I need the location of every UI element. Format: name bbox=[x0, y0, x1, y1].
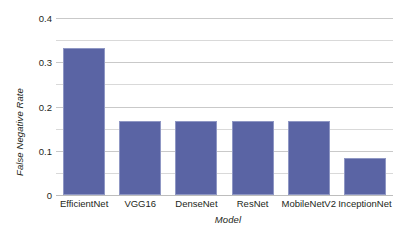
bar-efficientnet bbox=[63, 48, 105, 195]
x-tick-label-mobilenetv2: MobileNetV2 bbox=[281, 198, 337, 209]
bar-slot bbox=[232, 18, 274, 195]
y-tick-label-0.4: 0.4 bbox=[16, 13, 52, 24]
bar-inceptionnet bbox=[344, 158, 386, 195]
bar-densenet bbox=[175, 121, 217, 195]
y-tick-label-0: 0 bbox=[16, 190, 52, 201]
bar-resnet bbox=[232, 121, 274, 195]
bar-slot bbox=[344, 18, 386, 195]
x-axis-title: Model bbox=[63, 214, 393, 225]
y-tick-label-0.1: 0.1 bbox=[16, 145, 52, 156]
bar-mobilenetv2 bbox=[288, 121, 330, 195]
y-tick-label-0.2: 0.2 bbox=[16, 101, 52, 112]
x-tick-label-inceptionnet: InceptionNet bbox=[337, 198, 393, 209]
bar-slot bbox=[63, 18, 105, 195]
x-tick-label-resnet: ResNet bbox=[225, 198, 281, 209]
x-tick-label-vgg16: VGG16 bbox=[112, 198, 168, 209]
bar-chart-figure: False Negative Rate 00.10.20.30.4 Effici… bbox=[0, 0, 404, 242]
x-tick-label-densenet: DenseNet bbox=[168, 198, 224, 209]
bar-slot bbox=[119, 18, 161, 195]
bars-layer bbox=[56, 18, 393, 195]
y-tick-label-0.3: 0.3 bbox=[16, 57, 52, 68]
x-axis-line bbox=[56, 195, 393, 196]
bar-vgg16 bbox=[119, 121, 161, 195]
y-axis-tick-labels: 00.10.20.30.4 bbox=[8, 0, 52, 242]
bar-slot bbox=[288, 18, 330, 195]
x-axis-tick-labels: EfficientNetVGG16DenseNetResNetMobileNet… bbox=[56, 198, 393, 214]
x-tick-label-efficientnet: EfficientNet bbox=[56, 198, 112, 209]
bar-slot bbox=[175, 18, 217, 195]
